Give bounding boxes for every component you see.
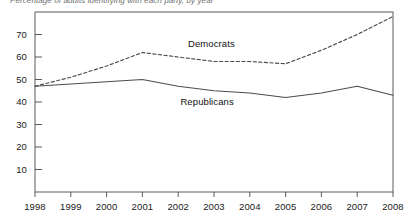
y-tick-label: 70 bbox=[5, 29, 27, 40]
x-tick-label: 2007 bbox=[340, 201, 374, 212]
x-tick-label: 2006 bbox=[304, 201, 338, 212]
y-tick-label: 10 bbox=[5, 164, 27, 175]
series-label-republicans: Republicans bbox=[180, 96, 233, 107]
series-line-republicans bbox=[35, 80, 393, 98]
y-tick-label: 30 bbox=[5, 119, 27, 130]
y-tick-label: 20 bbox=[5, 141, 27, 152]
x-tick-label: 2002 bbox=[161, 201, 195, 212]
line-chart-plot bbox=[0, 0, 416, 218]
x-tick-label: 2003 bbox=[197, 201, 231, 212]
x-tick-label: 2008 bbox=[376, 201, 410, 212]
x-tick-label: 2001 bbox=[125, 201, 159, 212]
x-tick-label: 1998 bbox=[18, 201, 52, 212]
series-line-democrats bbox=[35, 17, 393, 87]
x-tick-label: 2004 bbox=[233, 201, 267, 212]
y-tick-label: 40 bbox=[5, 96, 27, 107]
x-tick-label: 2000 bbox=[90, 201, 124, 212]
y-tick-label: 50 bbox=[5, 74, 27, 85]
series-label-democrats: Democrats bbox=[188, 38, 235, 49]
x-tick-label: 1999 bbox=[54, 201, 88, 212]
y-tick-label: 60 bbox=[5, 51, 27, 62]
chart-container: Percentage of adults identifying with ea… bbox=[0, 0, 416, 218]
y-axis-tick-marks bbox=[35, 35, 42, 170]
x-axis-tick-marks bbox=[35, 192, 393, 197]
x-tick-label: 2005 bbox=[269, 201, 303, 212]
